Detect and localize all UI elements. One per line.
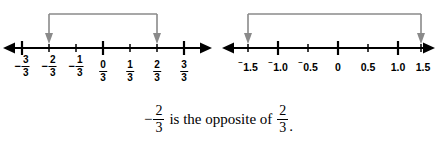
tick-value: 0 (335, 61, 341, 73)
tick-label-one-point-five: 1.5 (416, 58, 431, 74)
thirds-tick-labels: − 3 3 − 2 3 − (0, 55, 215, 89)
fraction-denominator: 3 (49, 66, 57, 78)
tick-label-three-thirds: 3 3 (180, 55, 188, 83)
tick-label-zero-point-five: 0.5 (361, 58, 376, 74)
tick-value: 1.0 (273, 61, 288, 73)
thirds-axis-line (3, 43, 212, 54)
fraction-sign: − (144, 111, 152, 128)
tick-label-neg-one-third: − 1 3 (69, 55, 84, 78)
caption-middle-text: is the opposite of (169, 111, 272, 128)
fraction-denominator: 3 (277, 119, 288, 135)
tick-label-neg-three-thirds: − 3 3 (15, 55, 30, 78)
caption-inner: − 2 3 is the opposite of 2 3 . (144, 104, 293, 136)
fraction-numerator: 3 (180, 60, 188, 71)
fraction-denominator: 3 (153, 71, 161, 83)
tick-label-one-third: 1 3 (126, 55, 134, 83)
fraction-denominator: 3 (99, 71, 107, 83)
fraction-numerator: 0 (99, 60, 107, 71)
decimals-axis-line (222, 43, 435, 54)
thirds-number-line: − 3 3 − 2 3 − (0, 0, 215, 92)
tick-label-neg-one-point-zero: ⁻1.0 (268, 58, 288, 74)
fraction-sign: − (42, 61, 48, 72)
tick-label-neg-zero-point-five: ⁻0.5 (298, 58, 318, 74)
tick-label-neg-two-thirds: − 2 3 (42, 55, 57, 78)
tick-value: 1.5 (243, 61, 258, 73)
fraction-sign: − (69, 61, 75, 72)
fraction-denominator: 3 (22, 66, 30, 78)
tick-label-two-thirds: 2 3 (153, 55, 161, 83)
decimals-opposite-bracket (244, 14, 425, 44)
caption-period: . (289, 118, 293, 136)
caption-left-fraction: − 2 3 (144, 104, 164, 136)
fraction-numerator: 2 (49, 55, 57, 66)
tick-label-neg-one-point-five: ⁻1.5 (238, 58, 258, 74)
thirds-opposite-bracket (45, 14, 161, 44)
fraction-denominator: 3 (180, 71, 188, 83)
fraction-denominator: 3 (126, 71, 134, 83)
fraction-numerator: 2 (153, 104, 164, 119)
decimals-tick-labels: ⁻1.5 ⁻1.0 ⁻0.5 0 0.5 1.0 (220, 58, 437, 92)
fraction-denominator: 3 (76, 66, 84, 78)
tick-value: 0.5 (361, 61, 376, 73)
tick-value: 1.0 (391, 61, 406, 73)
caption-right-fraction: 2 3 (277, 104, 288, 136)
opposites-number-line-figure: − 3 3 − 2 3 − (0, 0, 437, 153)
fraction-numerator: 1 (126, 60, 134, 71)
tick-label-one-point-zero: 1.0 (391, 58, 406, 74)
fraction-numerator: 1 (76, 55, 84, 66)
caption: − 2 3 is the opposite of 2 3 . (0, 104, 437, 136)
decimals-number-line: ⁻1.5 ⁻1.0 ⁻0.5 0 0.5 1.0 (220, 0, 437, 92)
tick-value: 0.5 (303, 61, 318, 73)
fraction-numerator: 3 (22, 55, 30, 66)
fraction-numerator: 2 (153, 60, 161, 71)
fraction-denominator: 3 (153, 119, 164, 135)
tick-label-zero-thirds: 0 3 (99, 55, 107, 83)
tick-value: 1.5 (416, 61, 431, 73)
fraction-sign: − (15, 61, 21, 72)
fraction-numerator: 2 (277, 104, 288, 119)
tick-label-zero: 0 (335, 58, 341, 74)
